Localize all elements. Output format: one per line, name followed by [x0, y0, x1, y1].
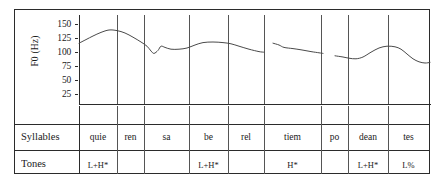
tone-cell-8: L%: [388, 160, 429, 170]
figure-frame: F0 (Hz) 150 125 100 75 50 25: [14, 9, 430, 174]
syllable-cell-7: dean: [348, 132, 388, 142]
tone-cell-3: L+H*: [189, 160, 228, 170]
row-label-tones: Tones: [21, 159, 77, 169]
table-divider-top: [15, 124, 429, 125]
syllable-cell-6: po: [321, 132, 348, 142]
tone-cell-0: L+H*: [79, 160, 117, 170]
syllable-cell-5: tiem: [264, 132, 321, 142]
tone-cell-5: H*: [264, 160, 321, 170]
syllable-cell-3: be: [189, 132, 228, 142]
syllable-cell-0: quie: [79, 132, 117, 142]
f0-contour-figure: F0 (Hz) 150 125 100 75 50 25: [0, 0, 447, 185]
annotation-table: Syllables Tones quie ren sa be rel tiem …: [15, 10, 431, 175]
tone-cell-7: L+H*: [348, 160, 388, 170]
syllable-cell-4: rel: [228, 132, 264, 142]
row-label-syllables: Syllables: [21, 132, 77, 142]
table-divider-syllables-bottom: [15, 150, 429, 151]
syllable-cell-1: ren: [117, 132, 144, 142]
syllable-cell-2: sa: [144, 132, 189, 142]
syllable-cell-8: tes: [388, 132, 429, 142]
